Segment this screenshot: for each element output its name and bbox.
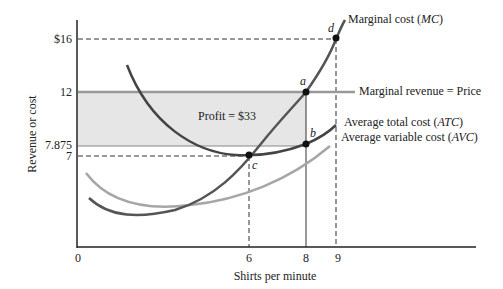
- label-a: a: [300, 74, 306, 88]
- label-d: d: [328, 21, 335, 35]
- atc-label: Average total cost (ATC): [344, 115, 463, 129]
- y-tick-7: 7: [66, 149, 72, 163]
- point-b: [303, 141, 310, 148]
- y-axis-title: Revenue or cost: [25, 95, 39, 173]
- y-tick-12: 12: [60, 85, 72, 99]
- cost-revenue-chart: a b c d Marginal cost (MC) Marginal reve…: [0, 0, 503, 289]
- profit-annotation: Profit = $33: [198, 109, 256, 123]
- mc-label: Marginal cost (MC): [348, 12, 443, 26]
- y-tick-16: $16: [54, 32, 72, 46]
- x-tick-6: 6: [246, 251, 252, 265]
- point-a: [303, 89, 310, 96]
- mr-label: Marginal revenue = Price: [359, 84, 481, 98]
- x-axis-title: Shirts per minute: [234, 269, 317, 283]
- label-b: b: [310, 126, 316, 140]
- x-tick-0: 0: [75, 251, 81, 265]
- avc-label: Average variable cost (AVC): [341, 130, 478, 144]
- x-tick-9: 9: [335, 251, 341, 265]
- avc-curve: [86, 146, 330, 207]
- label-c: c: [252, 158, 258, 172]
- point-d: [333, 35, 340, 42]
- profit-region: [78, 92, 306, 146]
- x-tick-8: 8: [303, 251, 309, 265]
